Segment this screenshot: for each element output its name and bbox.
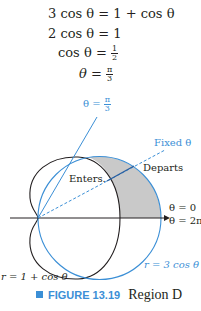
label-departs: Departs xyxy=(143,162,183,173)
label-fixed-theta: Fixed θ xyxy=(154,137,191,148)
label-circle-equation: r = 3 cos θ xyxy=(144,259,199,270)
theta-pi3-prefix: θ = xyxy=(83,98,104,109)
label-theta-two-pi: θ = 2π xyxy=(169,215,201,226)
figure-title: Region D xyxy=(128,287,182,302)
caption-square-icon xyxy=(36,291,43,298)
figure-caption: FIGURE 13.19Region D xyxy=(36,287,182,303)
figure-number: FIGURE 13.19 xyxy=(48,289,120,301)
label-theta-zero: θ = 0 xyxy=(169,202,196,213)
theta-pi3-den: 3 xyxy=(104,105,111,113)
label-enters: Enters. xyxy=(69,173,106,184)
theta-pi3-fraction: π3 xyxy=(104,96,111,113)
label-theta-pi-over-3: θ = π3 xyxy=(83,96,111,113)
label-cardioid-equation: r = 1 + cos θ xyxy=(1,271,68,282)
